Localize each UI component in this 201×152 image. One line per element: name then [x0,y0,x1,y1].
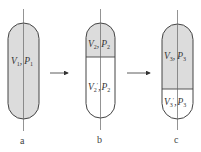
label-b-region-2: V2′,P2 [88,82,110,93]
label-b-region-1: V2,P2 [88,39,110,50]
label-c-region-1: V3,P3 [164,51,186,62]
label-c-region-2: V3′,P3 [164,97,186,108]
gas-capsule-diagram: V1,P1 a V2,P2 V2′,P2 b V3,P3 [0,0,201,152]
panel-a: V1,P1 a [8,9,39,146]
caption-c: c [174,134,179,145]
panel-c: V3,P3 V3′,P3 c [162,10,193,145]
panel-b: V2,P2 V2′,P2 b [86,9,115,145]
caption-b: b [97,134,102,145]
label-a-region-1: V1,P1 [11,56,33,67]
caption-a: a [20,135,25,146]
